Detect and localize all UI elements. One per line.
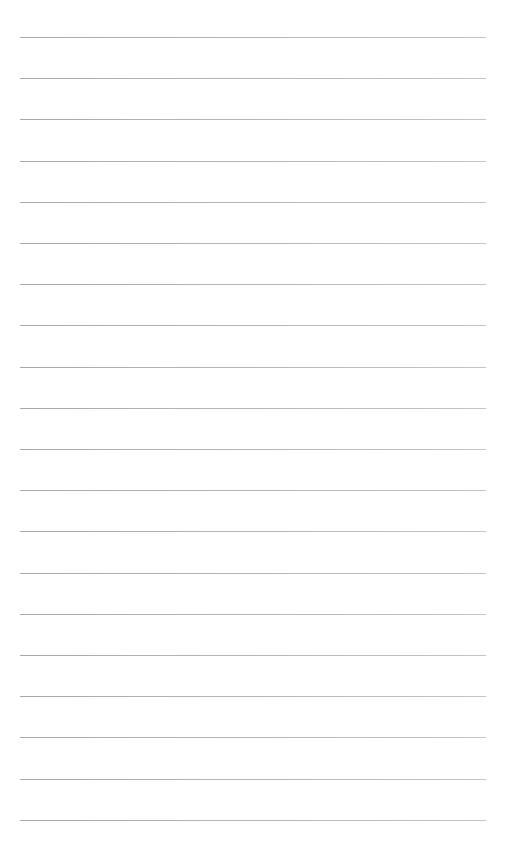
ruled-line [20, 737, 486, 738]
ruled-line [20, 367, 486, 368]
ruled-line [20, 78, 486, 79]
ruled-line [20, 202, 486, 203]
ruled-line [20, 119, 486, 120]
ruled-line [20, 614, 486, 615]
ruled-line [20, 531, 486, 532]
ruled-line [20, 325, 486, 326]
ruled-line [20, 779, 486, 780]
ruled-line [20, 37, 486, 38]
ruled-line [20, 284, 486, 285]
lined-paper-page [0, 0, 522, 862]
ruled-line [20, 243, 486, 244]
ruled-line [20, 161, 486, 162]
ruled-line [20, 449, 486, 450]
ruled-line [20, 820, 486, 821]
ruled-line [20, 655, 486, 656]
ruled-line [20, 573, 486, 574]
ruled-line [20, 490, 486, 491]
ruled-line [20, 408, 486, 409]
ruled-line [20, 696, 486, 697]
